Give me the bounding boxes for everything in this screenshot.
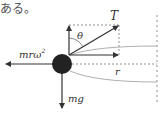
angle-label: θ — [77, 30, 83, 41]
tension-label: T — [110, 9, 119, 23]
lower-curve — [70, 71, 157, 82]
centrifugal-label-base: mrω — [19, 49, 41, 60]
radius-label: r — [115, 66, 121, 77]
centrifugal-label-exp: 2 — [40, 47, 45, 54]
force-diagram: T θ mrω2 mg r — [0, 0, 167, 119]
gravity-label: mg — [68, 93, 84, 104]
ball — [52, 54, 72, 74]
centrifugal-label: mrω2 — [19, 47, 45, 60]
